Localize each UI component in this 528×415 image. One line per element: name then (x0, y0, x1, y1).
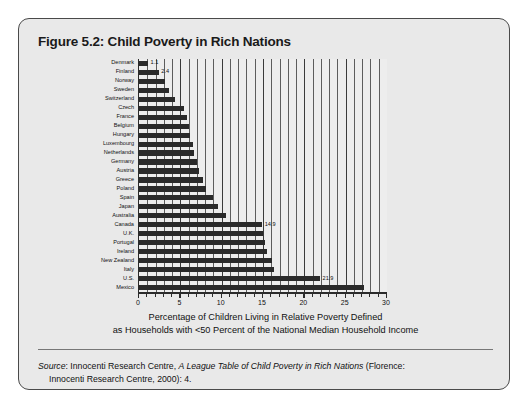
source-work-title: A League Table of Child Poverty in Rich … (179, 361, 364, 371)
bar (139, 133, 190, 138)
x-tick-26 (353, 293, 354, 297)
x-tick-label-30: 30 (382, 299, 390, 306)
bar (139, 97, 175, 102)
x-tick-20 (303, 293, 304, 298)
source-line-2: Innocenti Research Centre, 2000): 4. (38, 373, 495, 386)
category-label: Japan (119, 204, 134, 210)
category-label: Australia (112, 213, 134, 219)
category-label: Finland (116, 69, 134, 75)
bar (139, 177, 203, 182)
bar (139, 124, 189, 129)
x-tick-14 (254, 293, 255, 297)
gridline-28 (370, 59, 371, 292)
x-tick-12 (237, 293, 238, 297)
gridline-22 (321, 59, 322, 292)
x-tick-30 (386, 293, 387, 298)
source-attribution: : Innocenti Research Centre, (66, 361, 179, 371)
bar (139, 204, 218, 209)
bar (139, 240, 265, 245)
bar (139, 168, 199, 173)
bar-value-label: 1.1 (151, 60, 159, 66)
bar-value-label: 21.9 (323, 276, 334, 282)
x-tick-6 (188, 293, 189, 297)
x-tick-24 (336, 293, 337, 297)
gridline-25 (346, 59, 347, 292)
category-label: Belgium (114, 123, 134, 129)
category-label: Germany (111, 159, 134, 165)
category-label: Italy (124, 267, 134, 273)
gridline-21 (313, 59, 314, 292)
x-tick-29 (378, 293, 379, 297)
bar (139, 258, 272, 263)
category-label: Hungary (113, 132, 134, 138)
plot-area: 1.12.414.921.9 (138, 59, 387, 292)
source-label: Source (38, 361, 66, 371)
x-tick-1 (146, 293, 147, 297)
x-tick-5 (179, 293, 180, 298)
x-tick-7 (196, 293, 197, 297)
category-label: Denmark (111, 60, 134, 66)
category-label: U.S. (123, 276, 134, 282)
category-label: Netherlands (104, 150, 134, 156)
bar (139, 195, 213, 200)
bar (139, 276, 320, 281)
bar (139, 231, 263, 236)
x-tick-19 (295, 293, 296, 297)
x-tick-8 (204, 293, 205, 297)
x-tick-28 (369, 293, 370, 297)
x-tick-17 (279, 293, 280, 297)
x-tick-label-10: 10 (217, 299, 225, 306)
figure-panel: Figure 5.2: Child Poverty in Rich Nation… (18, 18, 510, 390)
x-tick-15 (262, 293, 263, 298)
x-tick-3 (163, 293, 164, 297)
x-tick-11 (229, 293, 230, 297)
bar (139, 159, 197, 164)
bar (139, 70, 159, 75)
chart-area: DenmarkFinlandNorwaySwedenSwitzerlandCze… (38, 59, 493, 319)
gridline-23 (329, 59, 330, 292)
x-tick-23 (328, 293, 329, 297)
x-tick-21 (312, 293, 313, 297)
x-tick-27 (361, 293, 362, 297)
x-axis-title: Percentage of Children Living in Relativ… (38, 311, 493, 336)
x-tick-2 (155, 293, 156, 297)
gridline-18 (288, 59, 289, 292)
category-label: Portugal (113, 240, 134, 246)
x-tick-13 (245, 293, 246, 297)
gridline-27 (362, 59, 363, 292)
source-publisher-start: (Florence: (363, 361, 405, 371)
x-tick-22 (320, 293, 321, 297)
bar (139, 267, 274, 272)
bar (139, 213, 226, 218)
x-tick-10 (221, 293, 222, 298)
x-tick-9 (212, 293, 213, 297)
category-label: Czech (118, 105, 134, 111)
category-label: Mexico (116, 285, 134, 291)
bar (139, 142, 193, 147)
bar (139, 249, 267, 254)
category-label: Luxembourg (103, 141, 134, 147)
category-label: U.K. (123, 231, 134, 237)
x-axis-title-line-1: Percentage of Children Living in Relativ… (38, 311, 493, 324)
category-label: France (117, 114, 134, 120)
gridline-19 (296, 59, 297, 292)
figure-title: Figure 5.2: Child Poverty in Rich Nation… (38, 34, 291, 49)
bar (139, 79, 165, 84)
x-tick-18 (287, 293, 288, 297)
x-axis-title-line-2: as Households with <50 Percent of the Na… (38, 324, 493, 337)
category-label: Switzerland (105, 96, 134, 102)
bar (139, 222, 262, 227)
x-tick-label-0: 0 (136, 299, 140, 306)
category-label: Sweden (114, 87, 134, 93)
bar (139, 115, 187, 120)
x-tick-label-25: 25 (341, 299, 349, 306)
bar-value-label: 14.9 (265, 222, 276, 228)
gridline-26 (354, 59, 355, 292)
x-tick-16 (270, 293, 271, 297)
bar (139, 61, 148, 66)
x-tick-25 (345, 293, 346, 298)
x-tick-label-20: 20 (299, 299, 307, 306)
category-label: Canada (114, 222, 134, 228)
category-label: Norway (115, 78, 134, 84)
x-tick-label-15: 15 (258, 299, 266, 306)
